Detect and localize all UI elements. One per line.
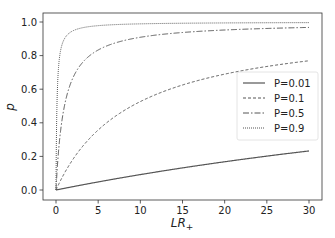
legend: P=0.01P=0.1P=0.5P=0.9 bbox=[237, 72, 318, 140]
x-tick-label: 30 bbox=[303, 205, 316, 216]
legend-label: P=0.01 bbox=[274, 78, 311, 89]
chart: 051015202530 0.00.20.40.60.81.0 LR+ p P=… bbox=[0, 0, 335, 238]
y-tick-label: 0.4 bbox=[21, 117, 37, 128]
y-tick-label: 0.0 bbox=[21, 185, 37, 196]
x-tick-label: 10 bbox=[134, 205, 147, 216]
x-tick-label: 25 bbox=[260, 205, 273, 216]
x-axis-label: LR+ bbox=[171, 216, 194, 232]
y-tick-label: 0.6 bbox=[21, 84, 37, 95]
x-axis-ticks: 051015202530 bbox=[53, 200, 316, 216]
legend-label: P=0.5 bbox=[274, 108, 304, 119]
y-tick-label: 1.0 bbox=[21, 17, 37, 28]
x-tick-label: 5 bbox=[95, 205, 101, 216]
x-tick-label: 0 bbox=[53, 205, 59, 216]
x-tick-label: 20 bbox=[218, 205, 231, 216]
legend-label: P=0.9 bbox=[274, 123, 304, 134]
y-tick-label: 0.8 bbox=[21, 50, 37, 61]
y-axis-label: p bbox=[3, 103, 17, 112]
x-tick-label: 15 bbox=[176, 205, 189, 216]
y-axis-ticks: 0.00.20.40.60.81.0 bbox=[21, 17, 43, 196]
legend-label: P=0.1 bbox=[274, 93, 304, 104]
y-tick-label: 0.2 bbox=[21, 151, 37, 162]
series-line-0 bbox=[56, 151, 309, 190]
